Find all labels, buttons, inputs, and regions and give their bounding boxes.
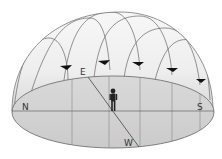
celestial-dome-diagram: N S E W [0,0,222,159]
label-south: S [197,102,203,112]
label-north: N [22,102,29,112]
horizon-plane [12,76,214,148]
label-west: W [124,138,133,148]
label-east: E [80,67,86,77]
